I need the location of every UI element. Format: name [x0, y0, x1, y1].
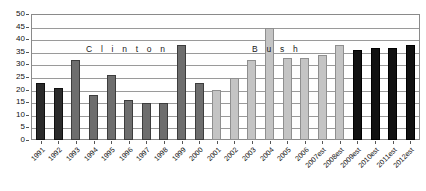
y-axis: 50454035302520151050: [0, 14, 29, 140]
x-axis: 1991199219931994199519961997199819992000…: [32, 141, 419, 191]
bar-slot: [226, 15, 244, 140]
x-axis-tick-mark: [393, 141, 394, 144]
bar-slot: [138, 15, 156, 140]
x-axis-slot: 2002: [226, 141, 244, 191]
x-axis-tick-label: 1991: [29, 146, 46, 163]
x-axis-tick-mark: [129, 141, 130, 144]
x-axis-tick-mark: [58, 141, 59, 144]
bar: [124, 100, 133, 140]
y-axis-tick-mark: [26, 90, 29, 91]
x-axis-tick-label: 1997: [135, 146, 152, 163]
bar: [107, 75, 116, 140]
x-axis-tick-mark: [111, 141, 112, 144]
x-axis-slot: 1991: [32, 141, 50, 191]
x-axis-slot: 2001: [208, 141, 226, 191]
y-axis-tick-label: 10: [16, 111, 25, 119]
x-axis-tick-mark: [357, 141, 358, 144]
bar: [247, 60, 256, 140]
x-axis-tick-mark: [94, 141, 95, 144]
bar-slot: [173, 15, 191, 140]
x-axis-slot: 1993: [67, 141, 85, 191]
bar: [159, 103, 168, 141]
y-axis-tick-mark: [26, 39, 29, 40]
bar: [54, 88, 63, 141]
bar: [177, 45, 186, 140]
x-axis-tick-mark: [410, 141, 411, 144]
bar-slot: [278, 15, 296, 140]
y-axis-tick-label: 25: [16, 73, 25, 81]
y-axis-tick-mark: [26, 27, 29, 28]
y-axis-tick-label: 5: [21, 123, 25, 131]
x-axis-tick-mark: [199, 141, 200, 144]
x-axis-tick-mark: [76, 141, 77, 144]
bar-slot: [190, 15, 208, 140]
x-axis-slot: 2004: [261, 141, 279, 191]
y-axis-tick-label: 0: [21, 136, 25, 144]
x-axis-tick-label: 1993: [65, 146, 82, 163]
x-axis-tick-mark: [270, 141, 271, 144]
x-axis-tick-label: 1996: [117, 146, 134, 163]
bar-slot: [366, 15, 384, 140]
bar: [371, 48, 380, 141]
y-axis-tick-mark: [26, 77, 29, 78]
x-axis-tick-label: 2002: [223, 146, 240, 163]
y-axis-tick-label: 20: [16, 86, 25, 94]
bar: [283, 58, 292, 141]
y-axis-tick-mark: [26, 127, 29, 128]
x-axis-tick-mark: [146, 141, 147, 144]
x-axis-slot: 1996: [120, 141, 138, 191]
bar-slot: [261, 15, 279, 140]
x-axis-tick-label: 1995: [100, 146, 117, 163]
x-axis-tick-label: 2001: [205, 146, 222, 163]
bar-slot: [401, 15, 419, 140]
x-axis-tick-mark: [340, 141, 341, 144]
x-axis-tick-label: 1998: [153, 146, 170, 163]
x-axis-slot: 1992: [50, 141, 68, 191]
x-axis-tick-mark: [287, 141, 288, 144]
bar-slot: [349, 15, 367, 140]
bar-slot: [102, 15, 120, 140]
x-axis-slot: 1998: [155, 141, 173, 191]
x-axis-tick-label: 2003: [241, 146, 258, 163]
x-axis-tick-label: 1999: [170, 146, 187, 163]
bar-slot: [331, 15, 349, 140]
bar-slot: [155, 15, 173, 140]
bar: [36, 83, 45, 141]
bar: [335, 45, 344, 140]
x-axis-tick-mark: [305, 141, 306, 144]
x-axis-slot: 2012est: [401, 141, 419, 191]
x-axis-slot: 1994: [85, 141, 103, 191]
bar-slot: [314, 15, 332, 140]
x-axis-tick-label: 2004: [258, 146, 275, 163]
bar-chart: 50454035302520151050 C l i n t o n B u s…: [0, 0, 426, 191]
bar: [318, 55, 327, 140]
x-axis-tick-mark: [234, 141, 235, 144]
x-axis-tick-mark: [252, 141, 253, 144]
era-label-bush: B u s h: [252, 45, 301, 54]
x-axis-tick-mark: [164, 141, 165, 144]
bar: [142, 103, 151, 141]
x-axis-tick-label: 2005: [276, 146, 293, 163]
y-axis-tick-label: 45: [16, 23, 25, 31]
x-axis-tick-mark: [375, 141, 376, 144]
y-axis-tick-label: 35: [16, 48, 25, 56]
bar-slot: [296, 15, 314, 140]
y-axis-tick-mark: [26, 140, 29, 141]
y-axis-tick-mark: [26, 102, 29, 103]
x-axis-tick-mark: [41, 141, 42, 144]
bar: [195, 83, 204, 141]
bar-slot: [208, 15, 226, 140]
y-axis-tick-mark: [26, 64, 29, 65]
x-axis-tick-mark: [217, 141, 218, 144]
bar-slot: [32, 15, 50, 140]
x-axis-tick-mark: [182, 141, 183, 144]
x-axis-slot: 2000: [190, 141, 208, 191]
x-axis-slot: 1999: [173, 141, 191, 191]
bar-slot: [384, 15, 402, 140]
bars-container: [32, 15, 419, 140]
x-axis-slot: 2003: [243, 141, 261, 191]
y-axis-tick-label: 50: [16, 10, 25, 18]
y-axis-tick-mark: [26, 115, 29, 116]
y-axis-tick-mark: [26, 14, 29, 15]
bar: [406, 45, 415, 140]
